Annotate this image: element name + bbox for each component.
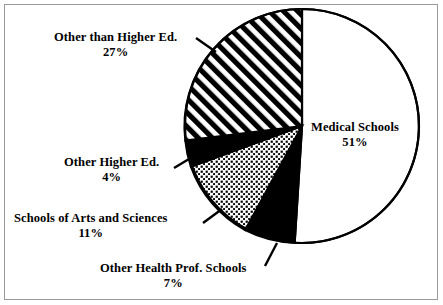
leader-line-schools-of-arts-and-sciences — [203, 209, 222, 223]
slice-label-name: Other Health Prof. Schools — [100, 261, 247, 275]
slice-label-percent: 11% — [14, 226, 168, 241]
slice-label-percent: 7% — [100, 276, 247, 291]
slice-label-name: Other Higher Ed. — [64, 155, 159, 169]
slice-label-percent: 27% — [54, 45, 177, 60]
slice-label-name: Medical Schools — [311, 120, 399, 134]
slice-label-name: Schools of Arts and Sciences — [14, 211, 168, 225]
slice-label-other-than-higher-ed: Other than Higher Ed. 27% — [54, 30, 177, 61]
slice-label-medical-schools: Medical Schools 51% — [311, 120, 399, 151]
slice-label-percent: 4% — [64, 170, 159, 185]
slice-label-percent: 51% — [311, 135, 399, 150]
pie-slice-other-than-higher-ed — [185, 9, 302, 141]
leader-line-other-than-higher-ed — [196, 38, 216, 52]
pie-chart-figure: Other than Higher Ed. 27% Medical School… — [0, 0, 443, 305]
slice-label-other-health-prof-schools: Other Health Prof. Schools 7% — [100, 261, 247, 292]
slice-label-other-higher-ed: Other Higher Ed. 4% — [64, 155, 159, 186]
slice-label-schools-of-arts-and-sciences: Schools of Arts and Sciences 11% — [14, 211, 168, 242]
leader-line-other-health-prof-schools — [265, 243, 277, 266]
slice-label-name: Other than Higher Ed. — [54, 30, 177, 44]
